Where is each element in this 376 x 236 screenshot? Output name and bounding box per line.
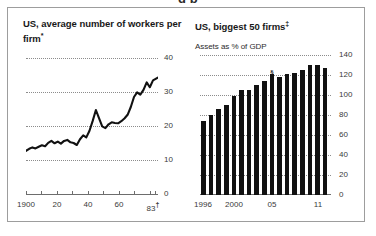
figure-frame: US, average number of workers per firm* … [7, 7, 365, 222]
ytick-label-120: 120 [339, 71, 352, 79]
right-title-footnote-marker: ‡ [285, 20, 289, 27]
xlabel-2000: 2000 [225, 200, 243, 209]
bar-1998 [216, 109, 221, 195]
xlabel-11: 11 [314, 200, 322, 209]
ytick-label-80: 80 [339, 111, 348, 119]
chart-panel-right: US, biggest 50 firms‡ Assets as % of GDP… [186, 8, 360, 221]
ytick-label-0: 0 [339, 191, 343, 199]
left-chart-title: US, average number of workers per firm* [23, 18, 183, 44]
ytick-label-60: 60 [339, 131, 348, 139]
xlabel-1900: 1900 [17, 200, 35, 209]
workers-per-firm-line [26, 58, 158, 195]
bar-2000 [232, 96, 237, 195]
ytick-label-100: 100 [339, 91, 352, 99]
bar-2002 [247, 90, 252, 195]
xlabel-05: 05 [268, 200, 277, 209]
bar-2004 [262, 81, 267, 195]
xlabel-1996: 1996 [194, 200, 212, 209]
xlabel-83-footnote-marker: † [156, 201, 160, 208]
bar-1996 [201, 121, 206, 195]
bar-chart-plot-area: 140 120 100 80 60 40 20 0 [200, 55, 331, 195]
ytick-label-20: 20 [339, 171, 348, 179]
bar-2003 [254, 85, 259, 195]
right-chart-subtitle: Assets as % of GDP [195, 42, 267, 51]
bar-2010 [308, 65, 313, 195]
ytick-label-40: 40 [339, 151, 348, 159]
xlabel-83: 83† [147, 200, 160, 213]
bar-2005 [270, 74, 275, 195]
bar-1999 [224, 105, 229, 195]
bar-2008 [292, 73, 297, 195]
bar-2001 [239, 90, 244, 195]
bar-2011 [315, 65, 320, 195]
bar-2006 [277, 77, 282, 195]
right-chart-title-text: US, biggest 50 firms [195, 21, 285, 32]
ytick-label-140: 140 [339, 51, 352, 59]
xlabel-83-text: 83 [147, 204, 156, 213]
xlabel-60: 60 [115, 200, 124, 209]
bar-2012 [323, 68, 328, 195]
ytick-label-0: 0 [164, 190, 168, 198]
clipped-headline: g p [0, 0, 376, 3]
left-title-footnote-marker: * [41, 32, 44, 39]
gridline-140 [200, 55, 331, 56]
bar-1997 [209, 115, 214, 195]
bar-2009 [300, 70, 305, 195]
line-chart-plot-area: 40 30 20 10 0 [26, 58, 158, 195]
xlabel-40: 40 [84, 200, 93, 209]
right-chart-title: US, biggest 50 firms‡ [195, 18, 355, 33]
ytick-label-10: 10 [164, 156, 173, 164]
left-chart-title-text: US, average number of workers per firm [23, 18, 181, 44]
xlabel-20: 20 [53, 200, 62, 209]
chart-panel-left: US, average number of workers per firm* … [14, 8, 186, 221]
ytick-label-30: 30 [164, 88, 173, 96]
bar-footnote-marker: § [270, 69, 273, 75]
ytick-label-40: 40 [164, 54, 173, 62]
bar-2007 [285, 74, 290, 195]
ytick-label-20: 20 [164, 122, 173, 130]
